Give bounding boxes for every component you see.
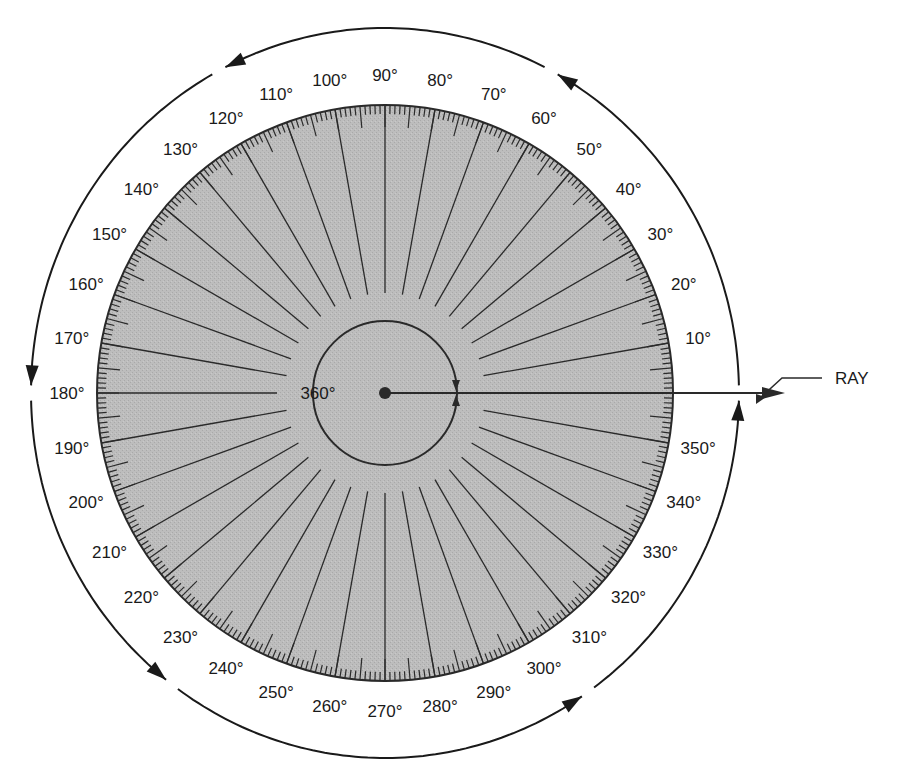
tick-mark [365, 671, 366, 680]
degree-label: 200° [69, 493, 104, 512]
degree-label: 290° [476, 683, 511, 702]
degree-label: 30° [648, 225, 674, 244]
degree-label: 180° [49, 384, 84, 403]
degree-label: 60° [531, 109, 557, 128]
degree-label: 150° [92, 225, 127, 244]
degree-label: 340° [666, 493, 701, 512]
degree-label: 230° [163, 628, 198, 647]
degree-label: 40° [616, 180, 642, 199]
degree-label: 210° [92, 543, 127, 562]
tick-mark [365, 106, 366, 115]
tick-mark [404, 671, 405, 680]
degree-label: 260° [312, 697, 347, 716]
degree-label: 320° [611, 588, 646, 607]
center-point [379, 387, 391, 399]
degree-label: 190° [54, 439, 89, 458]
center-360-label: 360° [300, 384, 335, 403]
degree-label: 120° [208, 109, 243, 128]
circle-degrees-diagram: 10°20°30°40°50°60°70°80°90°100°110°120°1… [0, 0, 903, 781]
tick-mark [404, 106, 405, 115]
degree-label: 350° [681, 439, 716, 458]
tick-mark [663, 373, 672, 374]
outer-circle-arc [178, 689, 582, 758]
rotation-arrowhead-icon [731, 401, 744, 421]
ray-callout: RAY [756, 369, 869, 404]
outer-circle-arc [225, 28, 544, 67]
diagram-canvas: 10°20°30°40°50°60°70°80°90°100°110°120°1… [0, 0, 903, 781]
rotation-arrowhead-icon [225, 53, 246, 67]
degree-label: 250° [259, 683, 294, 702]
degree-label: 10° [685, 329, 711, 348]
degree-label: 140° [124, 180, 159, 199]
degree-label: 130° [163, 140, 198, 159]
tick-mark [98, 373, 107, 374]
rotation-arrowhead-icon [558, 74, 578, 90]
degree-label: 300° [526, 659, 561, 678]
degree-label: 330° [643, 543, 678, 562]
degree-label: 50° [577, 140, 603, 159]
rotation-arrowhead-icon [26, 365, 39, 385]
degree-label: 220° [124, 588, 159, 607]
degree-label: 90° [372, 66, 398, 85]
rotation-arrowhead-icon [562, 696, 582, 712]
degree-label: 20° [671, 275, 697, 294]
degree-label: 160° [69, 275, 104, 294]
degree-label: 270° [367, 702, 402, 721]
degree-label: 310° [572, 628, 607, 647]
ray-label: RAY [835, 369, 869, 388]
degree-label: 70° [481, 85, 507, 104]
degree-label: 80° [427, 71, 453, 90]
degree-label: 100° [312, 71, 347, 90]
degree-label: 170° [54, 329, 89, 348]
degree-label: 110° [259, 85, 293, 104]
tick-mark [663, 412, 672, 413]
degree-label: 280° [423, 697, 458, 716]
tick-mark [98, 412, 107, 413]
degree-label: 240° [208, 659, 243, 678]
